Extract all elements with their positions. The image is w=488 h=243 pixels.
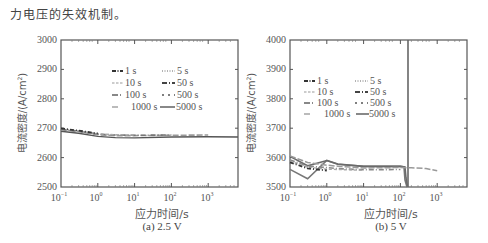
svg-text:3500: 3500 xyxy=(266,181,286,192)
svg-text:2700: 2700 xyxy=(37,122,57,133)
svg-text:50 s: 50 s xyxy=(370,86,387,97)
svg-text:101: 101 xyxy=(356,191,369,203)
legend: 1 s 5 s 10 s 50 s 100 s 500 s 1000 s 500… xyxy=(112,65,203,112)
caption-a: (a) 2.5 V xyxy=(102,220,222,232)
svg-text:1 s: 1 s xyxy=(317,75,329,86)
svg-text:2800: 2800 xyxy=(37,93,57,104)
svg-text:5000 s: 5000 s xyxy=(176,101,203,112)
svg-text:3000: 3000 xyxy=(37,34,57,45)
x-tick-labels: 10−1 100 101 102 103 xyxy=(51,191,214,203)
y-tick-labels: 3500 3600 3700 3800 3900 4000 xyxy=(266,34,286,192)
svg-text:100 s: 100 s xyxy=(125,89,147,100)
svg-text:2900: 2900 xyxy=(37,63,57,74)
data-curves xyxy=(61,129,238,138)
y-tick-labels: 2500 2600 2700 2800 2900 3000 xyxy=(37,34,57,192)
curve-5000s-visible xyxy=(290,156,408,187)
svg-text:500 s: 500 s xyxy=(370,97,392,108)
svg-text:10−1: 10−1 xyxy=(280,191,296,203)
svg-text:50 s: 50 s xyxy=(177,77,194,88)
svg-text:1000 s: 1000 s xyxy=(324,108,351,119)
svg-text:3700: 3700 xyxy=(266,122,286,133)
x-ticks xyxy=(98,40,208,187)
svg-text:101: 101 xyxy=(127,191,140,203)
svg-text:100 s: 100 s xyxy=(317,97,339,108)
plot-frame xyxy=(61,40,238,187)
y-ticks xyxy=(61,69,238,157)
svg-text:3800: 3800 xyxy=(266,93,286,104)
svg-text:10 s: 10 s xyxy=(317,86,334,97)
svg-text:5 s: 5 s xyxy=(370,75,382,86)
svg-text:500 s: 500 s xyxy=(177,89,199,100)
svg-text:102: 102 xyxy=(393,191,406,203)
svg-text:102: 102 xyxy=(164,191,177,203)
svg-text:100: 100 xyxy=(319,191,332,203)
y-axis-label: 电流密度/(A/cm2) xyxy=(245,73,257,154)
x-axis-label-a: 应力时间/s xyxy=(102,205,222,221)
svg-text:10 s: 10 s xyxy=(125,77,142,88)
x-tick-labels: 10−1 100 101 102 103 xyxy=(280,191,443,203)
caption-b: (b) 5 V xyxy=(331,220,451,232)
svg-text:2500: 2500 xyxy=(37,181,57,192)
svg-text:3900: 3900 xyxy=(266,63,286,74)
svg-text:100: 100 xyxy=(90,191,103,203)
svg-text:5000 s: 5000 s xyxy=(369,108,396,119)
y-axis-label: 电流密度/(A/cm2) xyxy=(16,73,28,154)
svg-text:3600: 3600 xyxy=(266,152,286,163)
svg-text:2600: 2600 xyxy=(37,152,57,163)
curve-1000s-visible xyxy=(290,156,437,171)
svg-text:4000: 4000 xyxy=(266,34,286,45)
svg-text:103: 103 xyxy=(201,191,214,203)
x-axis-label-b: 应力时间/s xyxy=(331,205,451,221)
svg-text:103: 103 xyxy=(430,191,443,203)
svg-text:5 s: 5 s xyxy=(177,65,189,76)
x-minor-ticks xyxy=(72,40,234,187)
legend: 1 s 5 s 10 s 50 s 100 s 500 s 1000 s 500… xyxy=(304,75,396,119)
data-curves-visible xyxy=(290,156,437,187)
svg-text:1000 s: 1000 s xyxy=(131,101,158,112)
svg-text:10−1: 10−1 xyxy=(51,191,67,203)
svg-text:1 s: 1 s xyxy=(125,65,137,76)
